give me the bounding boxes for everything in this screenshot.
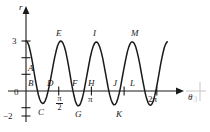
x-axis-arrowhead: [176, 88, 184, 95]
point-label-E: E: [56, 29, 62, 38]
point-label-M: M: [131, 29, 139, 38]
x-tick-label-pi: π: [88, 95, 93, 104]
y-axis-arrowhead: [23, 6, 30, 14]
point-label-L: L: [130, 79, 135, 88]
sine-curve: [26, 41, 167, 106]
point-label-H: H: [88, 79, 95, 88]
point-label-G: G: [75, 110, 82, 119]
point-label-C: C: [38, 108, 44, 117]
point-label-I: I: [93, 29, 96, 38]
point-label-J: J: [113, 79, 117, 88]
figure-sinusoidal-graph: r θ 0 3 −2 π 2 π 2π A B C D E F G H I J …: [0, 0, 210, 132]
neighbor-figure-fragment: −3: [186, 80, 210, 110]
y-tick-label-3: 3: [12, 37, 17, 46]
point-label-B: B: [28, 79, 34, 88]
x-tick-label-pi-over-2: π 2: [54, 95, 65, 112]
point-label-K: K: [116, 110, 122, 119]
y-tick-label-0: 0: [14, 88, 19, 97]
pi-over-2-numerator: π: [54, 95, 65, 103]
point-label-D: D: [47, 79, 54, 88]
y-tick-label-neg2: −2: [3, 112, 13, 121]
pi-over-2-denominator: 2: [54, 104, 65, 112]
x-tick-label-2pi: 2π: [148, 95, 157, 104]
neighbor-tick-label-neg3: −3: [188, 94, 198, 104]
point-label-F: F: [72, 79, 78, 88]
y-axis-label: r: [19, 3, 23, 12]
point-label-A: A: [28, 64, 34, 73]
